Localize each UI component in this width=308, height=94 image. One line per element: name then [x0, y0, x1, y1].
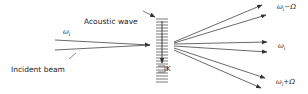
plus-omega-suffix: +Ω	[283, 78, 295, 86]
incident-beam-pointer	[69, 53, 76, 59]
wave-vector-label: K	[166, 66, 171, 73]
order-minus-label: ωi−Ω	[277, 4, 296, 12]
order-zero-label: ωi	[278, 43, 285, 51]
acoustic-wave-pointer	[143, 11, 155, 17]
minus-omega-suffix: −Ω	[284, 3, 296, 11]
order-plus-label: ωi+Ω	[276, 79, 295, 87]
subscript-i: i	[284, 45, 286, 51]
acousto-optic-diagram	[0, 0, 308, 94]
subscript-i: i	[69, 31, 71, 37]
diffracted-beams	[174, 5, 267, 88]
incident-beams	[55, 40, 150, 50]
incident-beam-label: Incident beam	[11, 66, 65, 74]
acoustic-wave-label: Acoustic wave	[84, 18, 138, 26]
incident-frequency-label: ωi	[63, 29, 70, 37]
